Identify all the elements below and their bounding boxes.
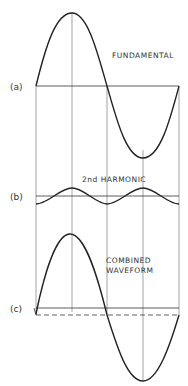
waveform-diagram: FUNDAMENTAL (a) 2nd HARMONIC (b) COMBINE…: [0, 0, 188, 386]
panel-b-tag: (b): [10, 192, 23, 202]
combined-label-line1: COMBINED: [106, 256, 151, 265]
combined-label-line2: WAVEFORM: [106, 266, 153, 275]
fundamental-wave: [36, 13, 179, 158]
panel-c-tag: (c): [10, 304, 22, 314]
fundamental-label: FUNDAMENTAL: [112, 51, 174, 60]
harmonic-label: 2nd HARMONIC: [82, 175, 146, 184]
panel-a-tag: (a): [10, 82, 23, 92]
